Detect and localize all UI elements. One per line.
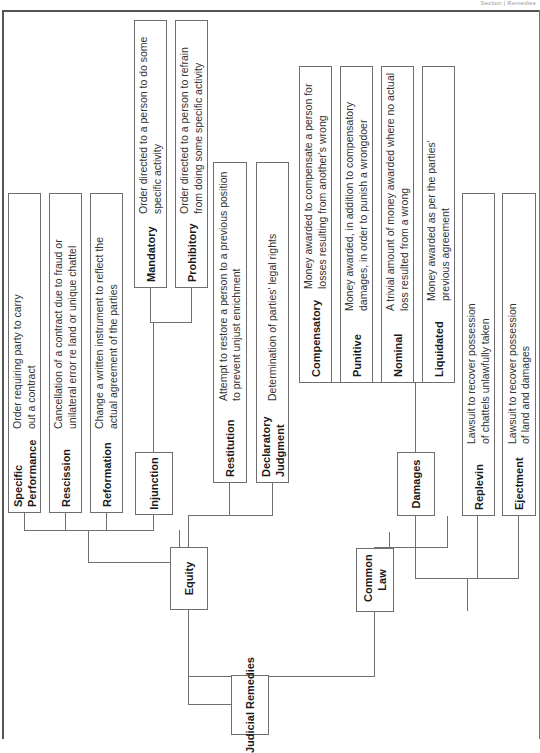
connector	[153, 322, 154, 452]
node-judicial-remedies: Judicial Remedies	[231, 675, 269, 735]
connector	[229, 482, 230, 516]
connector	[88, 530, 89, 563]
node-description: A trivial amount of money awarded where …	[384, 67, 411, 317]
node-label: Reformation	[100, 435, 114, 512]
node-liquidated: Liquidated Money awarded as per the part…	[422, 66, 455, 383]
node-replevin: Replevin Lawsuit to recover possession o…	[462, 193, 495, 516]
connector	[467, 578, 468, 611]
node-specific-performance: Specific Performance Order requiring par…	[8, 193, 41, 513]
connector	[447, 516, 448, 548]
node-label: Common Law	[361, 558, 389, 602]
connector	[24, 530, 154, 531]
node-ejectment: Ejectment Lawsuit to recover possession …	[502, 193, 536, 516]
node-declaratory-judgment: Declaratory Judgment Determination of pa…	[256, 162, 289, 483]
node-damages: Damages	[397, 452, 435, 516]
node-description: Cancellation of a contract due to fraud …	[52, 195, 79, 435]
node-prohibitory: Prohibitory Order directed to a person t…	[175, 20, 208, 288]
connector	[188, 610, 189, 677]
node-reformation: Reformation Change a written instrument …	[90, 193, 123, 513]
node-equity: Equity	[170, 547, 208, 610]
connector	[88, 562, 170, 563]
connector	[389, 532, 390, 533]
node-label: Equity	[182, 562, 196, 596]
node-description: Money awarded, in addition to compensato…	[343, 67, 370, 317]
node-description: Money awarded as per the parties' previo…	[425, 117, 452, 307]
node-restitution: Restitution Attempt to restore a person …	[213, 162, 247, 483]
connector	[389, 532, 390, 548]
connector	[374, 611, 375, 677]
node-label: Declaratory Judgment	[259, 407, 287, 482]
node-label: Prohibitory	[185, 220, 199, 287]
connector	[518, 515, 519, 579]
connector	[150, 287, 151, 323]
node-label: Damages	[409, 460, 423, 509]
node-label: Judicial Remedies	[243, 657, 257, 753]
connector	[179, 530, 180, 547]
node-description: Order directed to a person to refrain fr…	[178, 21, 205, 220]
node-description: Determination of parties' legal rights	[266, 167, 280, 407]
connector	[191, 287, 192, 323]
node-description: Attempt to restore a person to a previou…	[217, 167, 244, 407]
node-label: Rescission	[59, 435, 73, 512]
connector	[153, 515, 154, 531]
node-rescission: Rescission Cancellation of a contract du…	[49, 193, 82, 513]
connector	[188, 515, 189, 547]
node-label: Specific Performance	[11, 435, 39, 512]
node-description: Lawsuit to recover possession of land an…	[506, 290, 533, 450]
node-injunction: Injunction	[135, 452, 173, 515]
node-nominal: Nominal A trivial amount of money awarde…	[381, 66, 414, 383]
connector	[314, 382, 439, 383]
connector	[65, 513, 66, 531]
node-label: Compensatory	[309, 295, 323, 382]
node-description: Order requiring party to carry out a con…	[11, 285, 38, 435]
node-description: Order directed to a person to do some sp…	[137, 21, 164, 220]
connector	[415, 515, 416, 579]
node-description: Money awarded to compensate a person for…	[302, 67, 329, 295]
connector	[150, 322, 192, 323]
node-label: Liquidated	[432, 307, 446, 382]
connector	[272, 482, 273, 516]
node-label: Ejectment	[512, 450, 526, 515]
node-label: Restitution	[223, 407, 237, 482]
node-label: Nominal	[391, 317, 405, 382]
node-label: Replevin	[472, 450, 486, 515]
connector	[188, 515, 273, 516]
node-mandatory: Mandatory Order directed to a person to …	[134, 20, 167, 288]
node-label: Injunction	[147, 457, 161, 510]
node-label: Punitive	[350, 317, 364, 382]
connector	[24, 513, 25, 531]
node-punitive: Punitive Money awarded, in addition to c…	[340, 66, 373, 383]
connector	[477, 515, 478, 579]
node-common-law: Common Law	[356, 548, 394, 612]
connector	[188, 676, 375, 677]
node-description: Change a written instrument to reflect t…	[93, 205, 120, 435]
node-description: Lawsuit to recover possession of chattel…	[465, 290, 492, 450]
node-label: Mandatory	[144, 220, 158, 287]
node-compensatory: Compensatory Money awarded to compensate…	[299, 66, 332, 383]
connector	[106, 513, 107, 531]
connector	[415, 382, 416, 452]
